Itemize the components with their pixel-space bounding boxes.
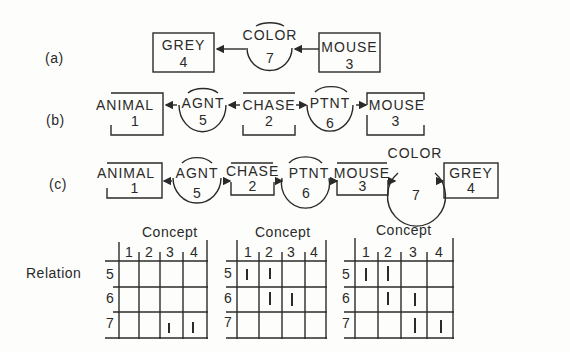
concept-label: ANIMAL: [90, 165, 162, 181]
concept-id: 2: [243, 113, 295, 129]
concept-header: Concept: [142, 224, 198, 240]
col-header-2: 2: [265, 244, 273, 260]
relation-id: 6: [306, 115, 354, 131]
mark-r6-c2: [269, 292, 271, 305]
relation-id: 7: [240, 50, 300, 66]
relation-id: 7: [392, 187, 440, 203]
row-header-5: 5: [106, 266, 114, 282]
relation-id: 6: [283, 185, 329, 201]
col-header-4: 4: [190, 244, 198, 260]
concept-label: GREY: [153, 37, 214, 53]
mark-r6-c2: [387, 292, 389, 305]
mark-r6-c3: [414, 293, 416, 306]
concept-id: 4: [153, 54, 214, 70]
row-label-c: (c): [49, 176, 67, 192]
mark-r5-c2: [387, 266, 389, 281]
relation-label: PTNT: [283, 165, 335, 181]
col-header-1: 1: [362, 244, 370, 260]
concept-label: CHASE: [226, 163, 278, 179]
relation-id: 5: [178, 112, 228, 128]
relation-label: AGNT: [178, 95, 228, 111]
concept-header: Concept: [255, 224, 311, 240]
row-label-a: (a): [45, 50, 64, 66]
concept-id: 1: [110, 113, 160, 129]
row-header-6: 6: [106, 290, 114, 306]
relation-label: COLOR: [240, 27, 300, 43]
row-header-5: 5: [224, 265, 232, 281]
col-header-4: 4: [435, 244, 443, 260]
mark-r7-c3: [168, 323, 170, 333]
col-header-2: 2: [384, 244, 392, 260]
mark-r6-c3: [291, 293, 293, 306]
row-header-5: 5: [342, 266, 350, 282]
mark-r7-c4: [440, 320, 442, 333]
row-label-b: (b): [46, 112, 65, 128]
concept-id: 1: [107, 180, 162, 196]
row-header-6: 6: [224, 290, 232, 306]
concept-label: CHASE: [240, 97, 298, 113]
concept-label: GREY: [444, 165, 498, 181]
col-header-4: 4: [310, 244, 318, 260]
concept-id: 4: [444, 180, 498, 196]
concept-id: 3: [337, 178, 388, 194]
concept-label: ANIMAL: [90, 97, 160, 113]
relation-label: AGNT: [172, 165, 222, 181]
mark-r5-c1: [246, 269, 248, 280]
relation-id: 5: [172, 185, 222, 201]
row-header-7: 7: [342, 315, 350, 331]
mark-r5-c1: [365, 268, 367, 281]
row-header-7: 7: [224, 314, 232, 330]
relation-axis-label: Relation: [26, 265, 81, 281]
concept-label: MOUSE: [319, 39, 380, 55]
mark-r7-c4: [192, 322, 194, 333]
concept-id: 2: [231, 178, 274, 194]
col-header-1: 1: [125, 244, 133, 260]
concept-label: MOUSE: [367, 97, 427, 113]
concept-id: 3: [367, 113, 424, 129]
col-header-3: 3: [166, 244, 174, 260]
mark-r7-c3: [414, 318, 416, 333]
concept-header: Concept: [376, 222, 432, 238]
relation-label: PTNT: [306, 95, 354, 111]
relation-label: COLOR: [385, 145, 445, 161]
col-header-2: 2: [145, 244, 153, 260]
row-header-7: 7: [106, 315, 114, 331]
concept-id: 3: [319, 56, 380, 72]
conceptual-graph-figure: (a) (b) (c) GREY 4 COLOR 7 MOUSE 3 ANIMA…: [0, 0, 570, 352]
col-header-1: 1: [244, 244, 252, 260]
mark-r5-c2: [269, 268, 271, 279]
row-header-6: 6: [342, 290, 350, 306]
col-header-3: 3: [409, 244, 417, 260]
relation-circle-color-top: [256, 23, 284, 26]
col-header-3: 3: [287, 244, 295, 260]
